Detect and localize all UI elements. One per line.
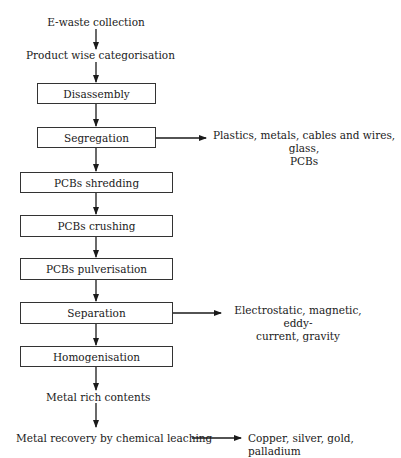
output-line-2: current, gravity bbox=[228, 330, 368, 343]
output-line-1: Electrostatic, magnetic, eddy- bbox=[228, 304, 368, 330]
leaching-output: Copper, silver, gold, palladium bbox=[248, 432, 396, 458]
step-label: Separation bbox=[67, 307, 125, 319]
step-crushing: PCBs crushing bbox=[20, 215, 173, 237]
step-disassembly: Disassembly bbox=[37, 83, 156, 104]
step-pulverisation: PCBs pulverisation bbox=[20, 258, 173, 280]
step-label: Segregation bbox=[64, 132, 129, 144]
step-label: PCBs pulverisation bbox=[46, 263, 147, 275]
step-categorisation: Product wise categorisation bbox=[26, 49, 166, 61]
step-separation: Separation bbox=[20, 302, 173, 324]
output-line-1: Plastics, metals, cables and wires, glas… bbox=[212, 129, 396, 155]
output-line-1: Copper, silver, gold, palladium bbox=[248, 432, 396, 458]
output-line-2: PCBs bbox=[212, 155, 396, 168]
step-shredding: PCBs shredding bbox=[20, 172, 173, 193]
step-homogenisation: Homogenisation bbox=[20, 346, 173, 367]
step-label: Disassembly bbox=[63, 88, 129, 100]
step-segregation: Segregation bbox=[37, 127, 156, 148]
step-collection: E-waste collection bbox=[46, 16, 146, 28]
step-metal-rich: Metal rich contents bbox=[46, 391, 146, 403]
step-leaching: Metal recovery by chemical leaching bbox=[16, 432, 176, 444]
segregation-output: Plastics, metals, cables and wires, glas… bbox=[212, 129, 396, 168]
step-label: PCBs shredding bbox=[54, 177, 139, 189]
separation-output: Electrostatic, magnetic, eddy- current, … bbox=[228, 304, 368, 343]
step-label: Homogenisation bbox=[53, 351, 140, 363]
step-label: PCBs crushing bbox=[57, 220, 135, 232]
